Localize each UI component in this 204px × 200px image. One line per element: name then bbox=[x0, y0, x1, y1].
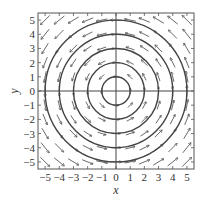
vector-arrow bbox=[127, 118, 134, 121]
vector-arrow bbox=[185, 57, 189, 68]
vector-arrow bbox=[43, 57, 47, 68]
vector-arrow bbox=[83, 32, 93, 37]
y-tick-label: −3 bbox=[23, 128, 35, 140]
vector-arrow bbox=[40, 15, 50, 25]
vector-arrow bbox=[168, 158, 178, 166]
vector-arrow bbox=[71, 115, 76, 123]
x-tick-label: 2 bbox=[142, 171, 148, 183]
y-tick-label: −5 bbox=[23, 156, 35, 168]
vector-arrow bbox=[68, 159, 79, 165]
vector-arrow bbox=[127, 61, 134, 64]
vector-arrow bbox=[140, 145, 150, 150]
x-tick-label: 1 bbox=[127, 171, 133, 183]
vector-arrow bbox=[98, 118, 105, 121]
x-tick-label: 3 bbox=[156, 171, 162, 183]
vector-arrow bbox=[54, 16, 64, 24]
y-tick-label: 2 bbox=[30, 57, 36, 69]
vector-arrow bbox=[41, 143, 49, 153]
vector-field-chart: −5−4−3−2−1012345 −5−4−3−2−1012345 x y bbox=[0, 0, 204, 200]
y-tick-label: −1 bbox=[23, 99, 35, 111]
vector-arrow bbox=[184, 43, 190, 54]
vector-arrow bbox=[156, 115, 161, 123]
vector-arrow bbox=[184, 128, 190, 139]
vector-arrow bbox=[82, 18, 93, 22]
vector-arrow bbox=[185, 114, 189, 125]
vector-arrow bbox=[182, 15, 192, 25]
x-tick-label: 0 bbox=[113, 171, 119, 183]
x-axis-label: x bbox=[112, 183, 119, 197]
x-tick-label: −2 bbox=[82, 171, 94, 183]
y-tick-label: 4 bbox=[30, 28, 36, 40]
vector-arrow bbox=[54, 158, 64, 166]
vector-arrow bbox=[99, 74, 104, 79]
vector-arrow bbox=[55, 30, 64, 39]
y-tick-label: −2 bbox=[23, 113, 35, 125]
vector-arrow bbox=[57, 58, 62, 68]
vector-arrow bbox=[86, 102, 89, 109]
vector-arrow bbox=[168, 30, 177, 39]
vector-arrow bbox=[42, 128, 48, 139]
vector-arrow bbox=[139, 160, 150, 164]
vector-arrow bbox=[153, 17, 164, 23]
vector-arrow bbox=[41, 29, 49, 39]
vector-arrow bbox=[153, 159, 164, 165]
vector-arrow bbox=[168, 143, 177, 152]
x-tick-label: 4 bbox=[170, 171, 176, 183]
vector-arrow bbox=[128, 103, 133, 108]
vector-arrow bbox=[183, 143, 191, 153]
vector-arrow bbox=[170, 115, 175, 125]
x-tick-label: −1 bbox=[96, 171, 108, 183]
vector-arrow bbox=[99, 103, 104, 108]
vector-arrow bbox=[140, 131, 148, 136]
x-tick-label: −3 bbox=[68, 171, 80, 183]
x-tick-label: −4 bbox=[53, 171, 65, 183]
vector-arrow bbox=[68, 17, 79, 23]
vector-arrow bbox=[83, 145, 93, 150]
vector-arrow bbox=[143, 73, 146, 80]
vector-arrow bbox=[40, 157, 50, 167]
vector-arrow bbox=[143, 102, 146, 109]
y-tick-label: 3 bbox=[30, 42, 36, 54]
y-tick-label: 0 bbox=[30, 85, 36, 97]
vector-arrow bbox=[140, 32, 150, 37]
y-tick-label: 1 bbox=[30, 71, 36, 83]
vector-arrow bbox=[139, 18, 150, 22]
vector-arrow bbox=[84, 46, 92, 51]
vector-arrow bbox=[42, 43, 48, 54]
y-tick-label: 5 bbox=[30, 14, 36, 26]
vector-arrow bbox=[170, 58, 175, 68]
y-axis-label: y bbox=[7, 88, 21, 95]
y-tick-label: −4 bbox=[23, 142, 35, 154]
vector-arrow bbox=[55, 143, 64, 152]
vector-arrow bbox=[84, 131, 92, 136]
vector-arrow bbox=[168, 16, 178, 24]
vector-arrow bbox=[140, 46, 148, 51]
vector-arrow bbox=[57, 115, 62, 125]
vector-arrow bbox=[86, 73, 89, 80]
vector-arrow bbox=[71, 59, 76, 67]
vector-arrow bbox=[128, 74, 133, 79]
x-tick-label: −5 bbox=[39, 171, 51, 183]
vector-arrow bbox=[182, 157, 192, 167]
x-tick-label: 5 bbox=[184, 171, 190, 183]
x-axis-ticks: −5−4−3−2−1012345 bbox=[39, 13, 190, 183]
vector-arrow bbox=[183, 29, 191, 39]
vector-arrow bbox=[156, 59, 161, 67]
vector-arrow bbox=[43, 114, 47, 125]
vector-arrow bbox=[98, 61, 105, 64]
vector-arrow bbox=[82, 160, 93, 164]
zero-axes bbox=[38, 13, 194, 169]
